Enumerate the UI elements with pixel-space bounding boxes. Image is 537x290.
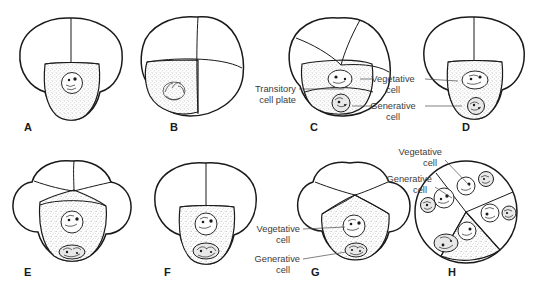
panel-letter-a: A [24,121,32,133]
panel-b: B [141,17,243,133]
panel-letter-c: C [310,121,318,133]
panel-letter-g: G [311,266,320,278]
panel-d-generative-nucleus [468,98,485,115]
panel-letter-h: H [448,266,456,278]
callout-generative-cd-line2: cell [386,112,400,122]
callout-generative-h-line1: Generative [387,174,432,184]
callout-vegetative-cell-h: Vegetative cell [399,147,442,168]
panel-e-generative-nucleus [59,245,85,259]
panel-a: A [20,18,122,133]
callout-generative-cell-g: Generative cell [255,254,300,275]
panel-d-vegetative-nucleus [462,71,488,89]
panel-c-vegetative-nucleus [328,70,352,88]
callout-transitory-line2: cell plate [259,95,296,105]
callout-vegetative-g-line1: Vegetative [257,224,300,234]
panel-a-nucleus [62,73,83,94]
callout-vegetative-h-line2: cell [423,158,437,168]
panel-c-generative-nucleus [332,94,350,112]
panel-g-generative-nucleus [345,243,367,257]
panel-letter-e: E [24,266,31,278]
callout-generative-cd-line1: Generative [370,101,415,111]
callout-vegetative-cell-g: Vegetative cell [257,224,300,245]
callout-vegetative-g-line2: cell [276,235,290,245]
panel-e: E [13,161,131,278]
callout-generative-cell-cd: Generative cell [370,101,415,122]
panel-f: F [155,163,256,278]
panel-letter-f: F [164,266,171,278]
callout-transitory-cell-plate: Transitory cell plate [255,84,296,105]
callout-generative-g-line1: Generative [255,254,300,264]
callout-vegetative-cd-line1: Vegetative [371,74,414,84]
panel-g-vegetative-nucleus [343,215,365,237]
callout-generative-g-line2: cell [276,265,290,275]
panel-b-vegetative-cell-shaded [145,60,198,114]
panel-letter-b: B [170,121,178,133]
figure-canvas: A B [0,0,537,290]
callout-generative-h-line2: cell [413,185,427,195]
callout-transitory-line1: Transitory [255,84,296,94]
callout-vegetative-h-line1: Vegetative [399,147,442,157]
panel-letter-d: D [462,121,470,133]
panel-f-vegetative-nucleus [195,213,217,235]
callout-vegetative-cd-line2: cell [386,85,400,95]
panel-f-generative-nucleus [193,243,219,259]
panel-d: D [424,17,524,133]
pollen-development-figure: A B [0,0,537,290]
panel-e-vegetative-nucleus [61,211,83,233]
